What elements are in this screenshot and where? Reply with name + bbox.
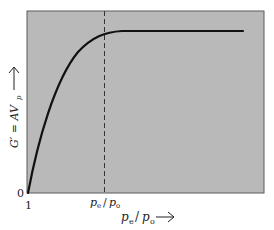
svg-text:o: o [150, 217, 155, 226]
x-axis-arrow-icon [156, 212, 174, 222]
svg-text:p: p [142, 210, 150, 224]
svg-text:p: p [121, 210, 129, 224]
x-axis-title: p e / p o [121, 210, 155, 226]
plot-area [27, 11, 264, 193]
svg-text:e: e [129, 217, 134, 226]
svg-text:p: p [15, 95, 23, 100]
svg-text:p: p [109, 196, 116, 209]
marker-label: p e / p o [90, 196, 120, 210]
svg-text:e: e [97, 202, 101, 210]
svg-text:o: o [116, 202, 120, 210]
y-axis-arrow-icon [9, 67, 19, 90]
x-one-label: 1 [25, 199, 32, 212]
chart: 0 1 p e / p o p e / p o G′ = AV p [0, 0, 274, 230]
svg-text:p: p [90, 196, 97, 209]
y-zero-label: 0 [17, 187, 24, 200]
svg-text:G′ = AV: G′ = AV [8, 104, 21, 148]
svg-text:/: / [103, 196, 107, 209]
y-axis-title: G′ = AV p [8, 95, 23, 148]
svg-text:/: / [135, 210, 140, 224]
